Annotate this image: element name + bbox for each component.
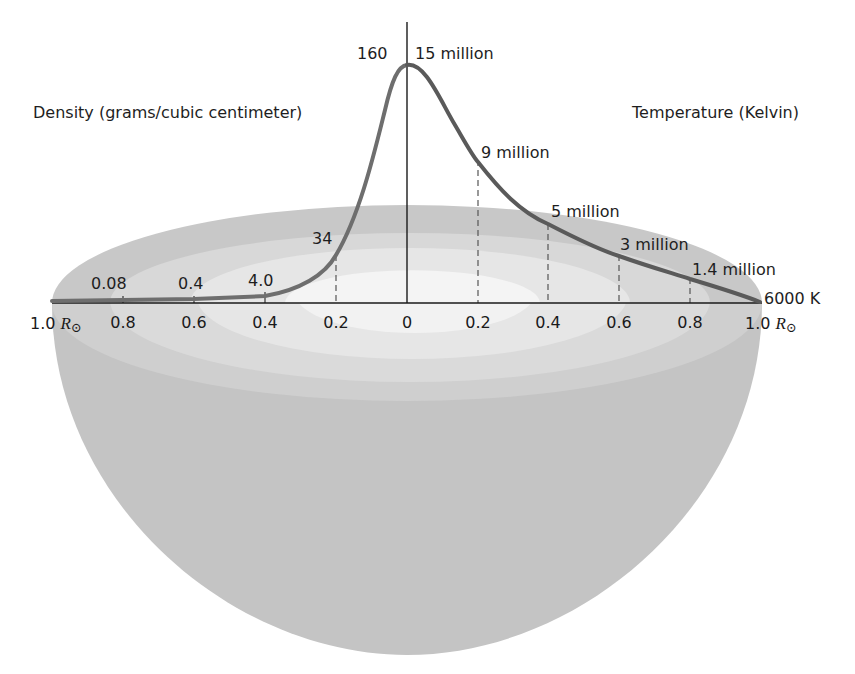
- temperature-axis-title: Temperature (Kelvin): [632, 105, 799, 121]
- density-axis-title: Density (grams/cubic centimeter): [33, 105, 302, 121]
- tick-left-0-4: 0.4: [252, 315, 277, 331]
- tick-left-0-2: 0.2: [323, 315, 348, 331]
- temperature-label-0-6: 3 million: [620, 237, 689, 253]
- tick-center-0: 0: [402, 315, 412, 331]
- center-temperature-label: 15 million: [415, 46, 494, 62]
- sphere-and-curves: [0, 0, 855, 674]
- center-density-label: 160: [357, 46, 388, 62]
- density-label-0-2: 34: [312, 231, 332, 247]
- temperature-label-0-4: 5 million: [551, 204, 620, 220]
- tick-left-0-6: 0.6: [181, 315, 206, 331]
- temperature-label-0-8: 1.4 million: [692, 262, 776, 278]
- tick-right-1-0: 1.0 R⊙: [745, 315, 797, 334]
- tick-right-0-8: 0.8: [677, 315, 702, 331]
- solar-radius-symbol: R⊙: [61, 314, 82, 333]
- tick-left-0-8: 0.8: [110, 315, 135, 331]
- temperature-label-0-2: 9 million: [481, 145, 550, 161]
- solar-interior-figure: Density (grams/cubic centimeter) Tempera…: [0, 0, 855, 674]
- tick-right-0-6: 0.6: [606, 315, 631, 331]
- density-label-0-4: 4.0: [248, 273, 273, 289]
- solar-radius-symbol: R⊙: [776, 314, 797, 333]
- density-label-0-8: 0.08: [91, 276, 127, 292]
- density-label-0-6: 0.4: [178, 276, 203, 292]
- tick-right-0-2: 0.2: [465, 315, 490, 331]
- tick-left-1-0: 1.0 R⊙: [30, 315, 82, 334]
- surface-temperature-label: 6000 K: [764, 291, 820, 307]
- tick-right-0-4: 0.4: [535, 315, 560, 331]
